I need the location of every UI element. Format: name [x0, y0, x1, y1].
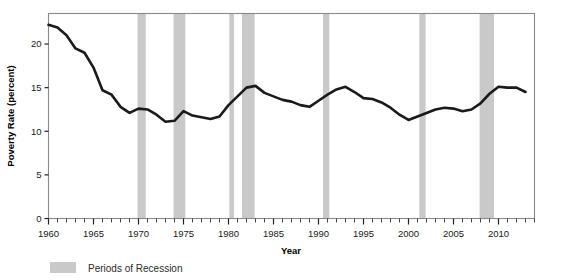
recession-band-1980: [229, 14, 234, 219]
x-tick-label-1965: 1965: [83, 228, 104, 239]
legend-label-recession: Periods of Recession: [88, 263, 183, 274]
recession-band-1969-1970: [138, 14, 146, 219]
recession-band-2007-2009: [480, 14, 494, 219]
y-tick-label-20: 20: [31, 38, 42, 49]
y-tick-label-10: 10: [31, 126, 42, 137]
y-tick-label-5: 5: [36, 169, 41, 180]
x-tick-label-1995: 1995: [353, 228, 374, 239]
legend: Periods of Recession: [50, 262, 183, 274]
y-axis-title: Poverty Rate (percent): [5, 65, 16, 166]
x-tick-label-1970: 1970: [128, 228, 149, 239]
x-tick-label-1980: 1980: [218, 228, 239, 239]
x-axis-title: Year: [281, 245, 301, 256]
poverty-rate-chart-figure: 05101520 1960196519701975198019851990199…: [0, 0, 567, 280]
x-tick-label-1975: 1975: [173, 228, 194, 239]
x-tick-label-2010: 2010: [488, 228, 509, 239]
x-tick-label-2005: 2005: [443, 228, 464, 239]
recession-band-1981-1982: [242, 14, 255, 219]
recession-band-1990-1991: [323, 14, 329, 219]
x-tick-label-1960: 1960: [38, 228, 59, 239]
y-tick-label-15: 15: [31, 82, 42, 93]
x-tick-label-2000: 2000: [398, 228, 419, 239]
x-tick-label-1990: 1990: [308, 228, 329, 239]
legend-swatch-recession: [50, 262, 76, 273]
y-tick-label-0: 0: [36, 213, 41, 224]
chart-canvas: 05101520 1960196519701975198019851990199…: [0, 0, 567, 280]
x-tick-label-1985: 1985: [263, 228, 284, 239]
